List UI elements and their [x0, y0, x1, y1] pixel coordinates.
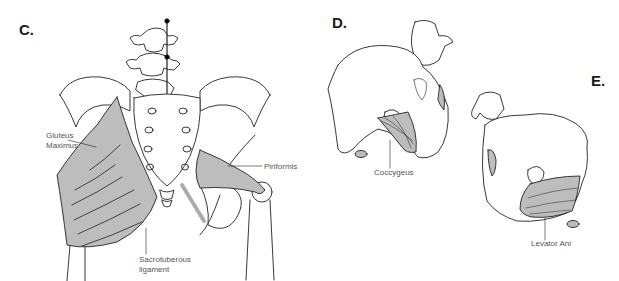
panel-c-pelvis: [57, 19, 274, 281]
label-sacrotuberous-line1: Sacrotuberous: [139, 255, 191, 265]
panel-d-pelvis: [328, 20, 453, 168]
label-gluteus-maximus: Gluteus Maximus: [46, 131, 78, 151]
label-gluteus-line1: Gluteus: [46, 131, 78, 141]
label-piriformis: Piriformis: [264, 162, 297, 172]
label-sacrotuberous-line2: ligament: [139, 265, 191, 275]
label-gluteus-line2: Maximus: [46, 141, 78, 151]
panel-e-pelvis: [472, 92, 588, 240]
label-sacrotuberous-ligament: Sacrotuberous ligament: [139, 255, 191, 275]
label-coccygeus: Coccygeus: [374, 168, 414, 178]
label-levator-ani: Levator Ani: [531, 239, 571, 249]
anatomy-illustration: [0, 0, 619, 281]
